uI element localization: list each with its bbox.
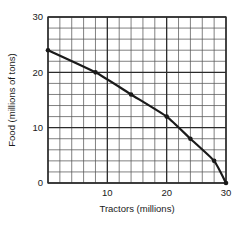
x-axis-tick-label: 10 — [102, 187, 113, 198]
x-axis-tick-label: 20 — [161, 187, 172, 198]
chart-background — [0, 0, 245, 229]
y-axis-tick-label: 20 — [32, 67, 43, 78]
data-point-marker — [129, 92, 134, 97]
x-axis-tick-label: 30 — [221, 187, 232, 198]
x-axis-title: Tractors (millions) — [99, 203, 174, 214]
data-point-marker — [93, 70, 98, 75]
y-axis-tick-label: 0 — [38, 177, 43, 188]
data-point-marker — [46, 48, 51, 53]
data-point-marker — [188, 136, 193, 141]
data-point-marker — [224, 181, 229, 186]
y-axis-tick-label: 10 — [32, 122, 43, 133]
y-axis-title: Food (millions of tons) — [6, 53, 17, 146]
chart-container: 0102030 102030 Tractors (millions) Food … — [0, 0, 245, 229]
y-axis-tick-label: 30 — [32, 11, 43, 22]
production-possibilities-chart: 0102030 102030 Tractors (millions) Food … — [0, 0, 245, 229]
data-point-marker — [164, 114, 169, 119]
data-point-marker — [212, 159, 217, 164]
